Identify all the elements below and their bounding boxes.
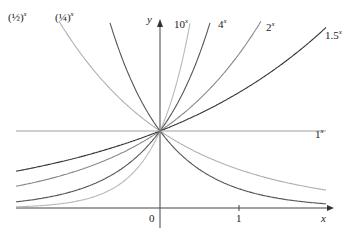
legend-label-one: 1x: [315, 127, 324, 140]
x-axis-arrow-icon: [327, 205, 334, 211]
origin-label: 0: [149, 212, 155, 224]
exponential-functions-chart: (½)x (¼)x 10x 4x 2x 1.5x 1x y x 0 1: [0, 0, 359, 241]
curve-15x: [16, 28, 326, 172]
curve-2x: [16, 21, 261, 186]
legend-label-two: 2x: [266, 20, 275, 33]
legend-label-ten: 10x: [174, 17, 188, 30]
curve-14x: [110, 23, 326, 204]
y-axis-label: y: [147, 13, 152, 25]
legend-label-half: (½)x: [8, 10, 27, 23]
curve-4x: [16, 23, 210, 202]
legend-label-onefive: 1.5x: [325, 28, 342, 41]
legend-label-quarter: (¼)x: [55, 10, 74, 23]
x-axis-label: x: [321, 212, 326, 224]
legend-label-four: 4x: [218, 17, 227, 30]
plot-area: [0, 0, 359, 241]
y-axis-arrow-icon: [157, 19, 163, 27]
x-tick-label-1: 1: [236, 212, 242, 224]
